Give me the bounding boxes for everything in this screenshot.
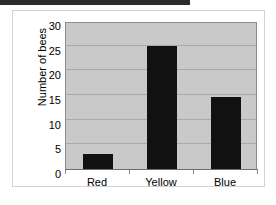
x-axis-label-yellow: Yellow: [145, 176, 176, 188]
y-axis-tick-label: 10: [39, 120, 61, 130]
y-axis-tick-labels: 051015202530: [39, 15, 61, 163]
scan-edge-band: [0, 0, 190, 5]
plot-area: [65, 22, 257, 170]
x-axis-tick: [193, 170, 194, 174]
y-axis-tick-label: 0: [39, 169, 61, 179]
y-axis-tick-label: 20: [39, 70, 61, 80]
bar-red: [83, 154, 113, 169]
x-axis-label-blue: Blue: [214, 176, 236, 188]
y-axis-tick-label: 30: [39, 21, 61, 31]
y-axis-tick-label: 5: [39, 144, 61, 154]
bar-yellow: [147, 46, 177, 169]
x-axis-tick: [65, 170, 66, 174]
bar-blue: [211, 97, 241, 169]
chart-figure: Number of bees 051015202530 RedYellowBlu…: [12, 10, 265, 187]
y-axis-tick-label: 15: [39, 95, 61, 105]
x-axis-tick: [129, 170, 130, 174]
x-axis-line: [65, 169, 258, 170]
y-axis-tick-label: 25: [39, 46, 61, 56]
x-axis-tick: [257, 170, 258, 174]
x-axis-label-red: Red: [87, 176, 107, 188]
